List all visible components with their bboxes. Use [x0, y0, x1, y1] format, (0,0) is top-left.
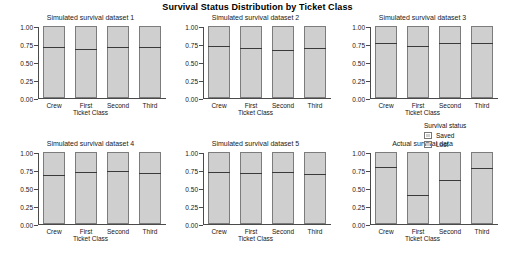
x-tick-label: Second — [272, 102, 294, 109]
bar-segment-divider — [75, 172, 97, 173]
y-tick-label: 1.00 — [352, 150, 365, 157]
chart-title: Survival Status Distribution by Ticket C… — [0, 2, 515, 12]
legend-swatch-saved — [424, 132, 432, 139]
y-axis-line — [38, 153, 39, 225]
y-tick — [199, 171, 203, 172]
y-tick-label: 0.50 — [185, 60, 198, 67]
y-axis-line — [370, 27, 371, 99]
plot-area: 0.000.250.500.751.00CrewFirstSecondThird — [203, 153, 331, 225]
y-tick-label: 1.00 — [185, 150, 198, 157]
y-tick-label: 0.50 — [352, 186, 365, 193]
stacked-bar — [304, 152, 326, 224]
stacked-bar — [208, 152, 230, 224]
y-axis-line — [370, 153, 371, 225]
bar-segment-divider — [139, 173, 161, 174]
legend-label-lost: Lost — [436, 141, 448, 148]
y-tick-label: 0.00 — [185, 96, 198, 103]
x-tick-label: First — [245, 102, 258, 109]
x-tick-label: First — [412, 228, 425, 235]
y-tick-label: 1.00 — [185, 24, 198, 31]
y-tick — [34, 189, 38, 190]
x-tick-label: Third — [143, 102, 158, 109]
stacked-bar — [439, 26, 461, 98]
y-tick — [34, 153, 38, 154]
stacked-bar — [471, 152, 493, 224]
bar-segment-divider — [304, 174, 326, 175]
bar-segment-divider — [407, 46, 429, 47]
bar-segment-divider — [107, 171, 129, 172]
y-tick — [366, 45, 370, 46]
y-tick — [34, 81, 38, 82]
y-tick-label: 0.50 — [352, 60, 365, 67]
x-axis-line — [203, 98, 331, 99]
legend-label-saved: Saved — [436, 132, 454, 139]
x-tick-label: Third — [475, 102, 490, 109]
stacked-bar — [407, 152, 429, 224]
x-tick-label: Second — [107, 102, 129, 109]
y-tick-label: 1.00 — [352, 24, 365, 31]
y-tick — [199, 99, 203, 100]
stacked-bar — [107, 26, 129, 98]
bar-segment-divider — [471, 168, 493, 169]
bar-segment-divider — [240, 48, 262, 49]
y-tick — [366, 225, 370, 226]
y-tick — [199, 189, 203, 190]
y-tick-label: 0.75 — [185, 168, 198, 175]
stacked-bar — [139, 152, 161, 224]
stacked-bar — [471, 26, 493, 98]
y-tick-label: 0.75 — [185, 42, 198, 49]
bar-segment-divider — [272, 50, 294, 51]
stacked-bar — [407, 26, 429, 98]
x-tick-label: Second — [439, 228, 461, 235]
x-tick-label: Crew — [46, 228, 61, 235]
x-axis-line — [38, 224, 166, 225]
y-tick — [199, 63, 203, 64]
y-tick — [366, 171, 370, 172]
y-tick — [366, 153, 370, 154]
bar-segment-divider — [439, 43, 461, 44]
y-tick-label: 0.00 — [185, 222, 198, 229]
bar-segment-divider — [240, 173, 262, 174]
x-tick-label: First — [80, 102, 93, 109]
y-axis-line — [203, 27, 204, 99]
legend-item: Saved — [424, 132, 512, 139]
y-tick — [34, 207, 38, 208]
bar-segment-divider — [407, 195, 429, 196]
y-tick-label: 0.25 — [185, 78, 198, 85]
y-tick — [34, 27, 38, 28]
chart-panel: Actual survival data0.000.250.500.751.00… — [340, 140, 505, 258]
y-tick-label: 0.25 — [185, 204, 198, 211]
y-tick — [34, 225, 38, 226]
y-tick — [366, 189, 370, 190]
stacked-bar — [107, 152, 129, 224]
chart-figure: Survival Status Distribution by Ticket C… — [0, 0, 515, 262]
x-axis-line — [370, 98, 498, 99]
y-axis-line — [38, 27, 39, 99]
y-tick-label: 0.25 — [352, 78, 365, 85]
chart-panel: Simulated survival dataset 20.000.250.50… — [173, 14, 338, 132]
y-tick — [199, 225, 203, 226]
y-tick — [366, 99, 370, 100]
y-tick — [199, 81, 203, 82]
y-tick-label: 1.00 — [20, 150, 33, 157]
bar-segment-divider — [208, 46, 230, 47]
legend: Survival status Saved Lost — [424, 122, 512, 150]
x-tick-label: Third — [308, 102, 323, 109]
stacked-bar — [272, 26, 294, 98]
stacked-bar — [240, 152, 262, 224]
y-tick-label: 0.50 — [185, 186, 198, 193]
stacked-bar — [240, 26, 262, 98]
y-tick — [34, 63, 38, 64]
y-tick-label: 0.75 — [20, 42, 33, 49]
stacked-bar — [75, 152, 97, 224]
legend-title: Survival status — [424, 122, 512, 129]
stacked-bar — [43, 26, 65, 98]
stacked-bar — [208, 26, 230, 98]
stacked-bar — [375, 26, 397, 98]
chart-panel: Simulated survival dataset 40.000.250.50… — [8, 140, 173, 258]
bar-segment-divider — [208, 172, 230, 173]
y-tick — [366, 63, 370, 64]
x-tick-label: Second — [439, 102, 461, 109]
bar-segment-divider — [43, 175, 65, 176]
y-tick — [199, 27, 203, 28]
